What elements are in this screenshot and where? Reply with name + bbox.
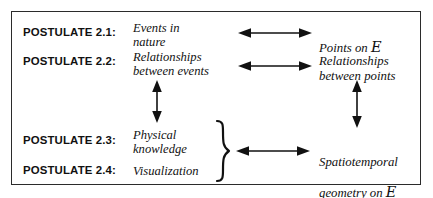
double-headed-vertical-arrow-icon-right <box>351 80 363 128</box>
phrase-events-in-nature: Events in nature <box>133 21 180 49</box>
double-headed-horizontal-arrow-icon-top <box>238 27 312 39</box>
postulate-label-2-3: POSTULATE 2.3: <box>23 134 116 146</box>
postulate-label-2-4: POSTULATE 2.4: <box>23 164 116 176</box>
phrase-points-on-e-text: Points on <box>319 41 371 55</box>
phrase-physical-knowledge: Physical knowledge <box>133 128 187 156</box>
script-e-symbol-top: E <box>371 39 382 55</box>
script-e-symbol-bottom: E <box>386 184 397 198</box>
postulate-diagram: POSTULATE 2.1: POSTULATE 2.2: POSTULATE … <box>0 0 433 198</box>
postulate-label-2-1: POSTULATE 2.1: <box>23 26 116 38</box>
spatiotemporal-line-2: geometry on <box>319 186 386 198</box>
postulate-label-2-2: POSTULATE 2.2: <box>23 55 116 67</box>
phrase-relationships-between-events: Relationships between events <box>133 50 209 78</box>
phrase-spatiotemporal-geometry: Spatiotemporal geometry on E <box>319 140 398 198</box>
double-headed-horizontal-arrow-icon-second <box>238 60 312 72</box>
spatiotemporal-line-1: Spatiotemporal <box>319 155 398 169</box>
right-curly-brace-icon <box>214 120 232 182</box>
double-headed-horizontal-arrow-icon-bottom <box>236 145 310 157</box>
double-headed-vertical-arrow-icon-left <box>151 80 163 123</box>
phrase-visualization: Visualization <box>133 164 199 178</box>
phrase-points-on-e: Points on E <box>319 25 382 56</box>
